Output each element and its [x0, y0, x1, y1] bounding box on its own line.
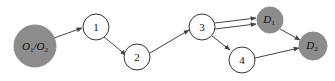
edge-3-to-4	[212, 36, 230, 50]
node-1-label: 1	[93, 21, 99, 33]
node-2: 2	[124, 44, 150, 70]
node-d1: D1	[257, 7, 283, 33]
node-4: 4	[229, 47, 255, 73]
node-2-label: 2	[134, 51, 140, 63]
edge-d1-to-d2	[280, 29, 300, 40]
node-d2: D2	[299, 32, 327, 60]
edge-1-to-2	[104, 37, 126, 55]
node-3: 3	[189, 14, 215, 40]
edge-4-to-d2	[255, 48, 299, 58]
node-origin: O1/O2	[14, 25, 56, 67]
edge-2-to-3	[150, 30, 189, 53]
edge-3-to-d1-upper	[215, 18, 256, 23]
node-1: 1	[83, 14, 109, 40]
edge-3-to-d1-lower	[215, 24, 256, 29]
edge-o-to-1	[54, 28, 82, 38]
node-4-label: 4	[239, 54, 245, 66]
network-path-diagram: O1/O2 1 2 3 4 D1 D2	[0, 0, 335, 81]
node-3-label: 3	[199, 21, 205, 33]
